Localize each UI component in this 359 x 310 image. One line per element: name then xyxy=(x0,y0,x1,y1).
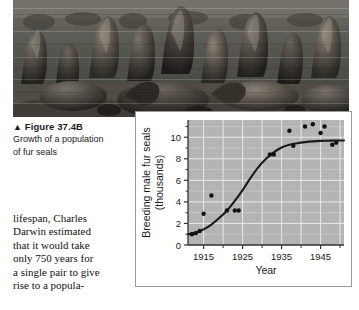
fur-seal-colony-photo xyxy=(13,0,349,117)
data-point xyxy=(190,232,194,236)
y-tick-label: 8 xyxy=(176,153,181,164)
data-point xyxy=(225,208,229,212)
body-text-line: Darwin estimated xyxy=(13,225,125,238)
data-point xyxy=(330,143,334,147)
data-point xyxy=(311,122,315,126)
x-axis-ticks: 1915192519351945 xyxy=(193,245,340,262)
data-point xyxy=(322,124,326,128)
body-text-column: lifespan, Charles Darwin estimated that … xyxy=(13,212,125,292)
fur-seal-population-chart: 02468101915192519351945YearBreeding male… xyxy=(135,111,352,287)
figure-title-line: ▲ Figure 37.4B xyxy=(13,121,153,133)
chart-canvas: 02468101915192519351945YearBreeding male… xyxy=(136,112,351,286)
y-tick-label: 6 xyxy=(176,175,181,186)
y-axis-ticks: 0246810 xyxy=(170,126,188,250)
data-point xyxy=(194,231,198,235)
photo-artwork xyxy=(13,0,349,117)
data-point xyxy=(233,208,237,212)
data-point xyxy=(268,152,272,156)
data-point xyxy=(198,229,202,233)
body-text-line: only 750 years for xyxy=(13,252,125,265)
data-point xyxy=(318,131,322,135)
figure-caption-line-2: of fur seals xyxy=(13,147,153,159)
body-text-line: that it would take xyxy=(13,239,125,252)
x-tick-label: 1945 xyxy=(310,251,331,262)
y-tick-label: 2 xyxy=(176,218,181,229)
y-tick-label: 0 xyxy=(176,240,181,251)
figure-caption-line-1: Growth of a population xyxy=(13,134,153,146)
body-text-line: a single pair to give xyxy=(13,266,125,279)
body-text-line: rise to a popula- xyxy=(13,279,125,292)
data-point xyxy=(201,212,205,216)
data-point xyxy=(303,124,307,128)
x-axis-label: Year xyxy=(255,264,277,276)
triangle-marker-icon: ▲ xyxy=(13,122,22,132)
data-point xyxy=(291,144,295,148)
y-axis-label-line-2: (thousands) xyxy=(153,155,165,210)
body-text-line: lifespan, Charles xyxy=(13,212,125,225)
y-tick-label: 10 xyxy=(170,132,181,143)
x-tick-label: 1915 xyxy=(193,251,214,262)
data-point xyxy=(209,193,213,197)
y-tick-label: 4 xyxy=(176,196,181,207)
x-tick-label: 1925 xyxy=(232,251,253,262)
figure-caption: ▲ Figure 37.4B Growth of a population of… xyxy=(13,121,153,158)
data-point xyxy=(287,129,291,133)
data-point xyxy=(334,140,338,144)
data-point xyxy=(237,208,241,212)
data-point xyxy=(272,152,276,156)
x-tick-label: 1935 xyxy=(271,251,292,262)
figure-number-label: Figure 37.4B xyxy=(25,121,83,132)
y-axis-label-line-1: Breeding male fur seals xyxy=(140,127,152,237)
textbook-page: ▲ Figure 37.4B Growth of a population of… xyxy=(0,0,359,310)
